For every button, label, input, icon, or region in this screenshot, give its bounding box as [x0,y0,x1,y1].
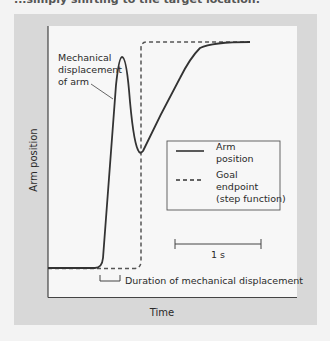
scale-bar-label: 1 s [211,249,225,260]
chart: Mechanical displacement of arm Arm posit… [0,0,330,341]
x-axis-label: Time [149,307,174,318]
y-axis-label: Arm position [28,128,39,191]
legend: Arm position Goal endpoint (step functio… [167,141,286,210]
duration-label: Duration of mechanical displacement [125,275,303,286]
